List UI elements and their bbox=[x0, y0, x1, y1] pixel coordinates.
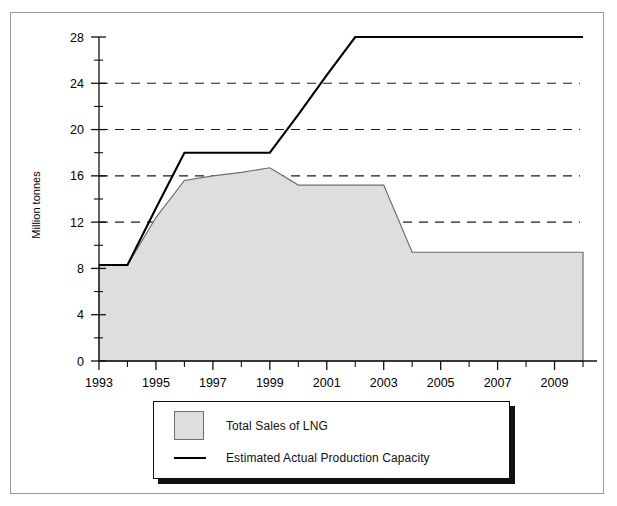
x-tick-label-1995: 1995 bbox=[142, 376, 170, 390]
y-tick-label-0: 0 bbox=[77, 355, 84, 369]
y-axis-title: Million tonnes bbox=[30, 171, 42, 239]
y-tick-label-20: 20 bbox=[70, 123, 84, 137]
x-tick-label-2001: 2001 bbox=[313, 376, 341, 390]
legend-label-total-sales: Total Sales of LNG bbox=[226, 419, 328, 433]
x-tick-label-2003: 2003 bbox=[370, 376, 398, 390]
x-tick-label-2009: 2009 bbox=[541, 376, 569, 390]
y-tick-label-24: 24 bbox=[70, 77, 84, 91]
x-tick-label-1993: 1993 bbox=[85, 376, 113, 390]
x-tick-label-2007: 2007 bbox=[484, 376, 512, 390]
legend-area-swatch-icon bbox=[174, 411, 204, 440]
legend-label-production-capacity: Estimated Actual Production Capacity bbox=[226, 451, 430, 465]
legend-line-swatch-icon bbox=[174, 457, 206, 459]
legend-item-production-capacity: Estimated Actual Production Capacity bbox=[174, 451, 430, 465]
legend-shadow-right bbox=[510, 406, 515, 484]
chart-legend: Total Sales of LNG Estimated Actual Prod… bbox=[153, 401, 510, 479]
x-tick-label-1997: 1997 bbox=[199, 376, 227, 390]
y-tick-label-16: 16 bbox=[70, 169, 84, 183]
chart-figure: 0481216202428 19931995199719992001200320… bbox=[0, 0, 617, 506]
y-tick-label-4: 4 bbox=[77, 308, 84, 322]
legend-shadow-bottom bbox=[158, 479, 515, 484]
area-fill bbox=[99, 168, 583, 361]
y-tick-label-8: 8 bbox=[77, 262, 84, 276]
series-area-total-sales-of-lng bbox=[99, 168, 583, 361]
y-tick-label-12: 12 bbox=[70, 216, 84, 230]
x-tick-label-2005: 2005 bbox=[427, 376, 455, 390]
y-axis-title-text: Million tonnes bbox=[30, 171, 42, 239]
y-tick-label-28: 28 bbox=[70, 31, 84, 45]
x-axis-ticks: 199319951997199920012003200520072009 bbox=[85, 361, 583, 390]
x-tick-label-1999: 1999 bbox=[256, 376, 284, 390]
legend-item-total-sales: Total Sales of LNG bbox=[174, 411, 328, 440]
